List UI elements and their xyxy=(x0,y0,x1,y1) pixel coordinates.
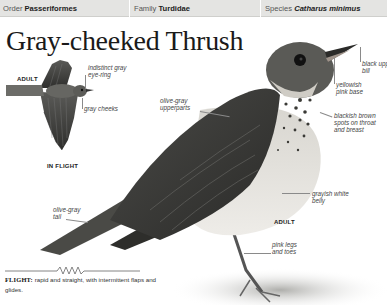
flight-heading: FLIGHT: xyxy=(5,276,33,283)
legs-label: pink legs and toes xyxy=(272,241,297,255)
family-cell: Family Turdidae xyxy=(130,0,261,17)
species-cell: Species Catharus minimus xyxy=(261,0,387,17)
bill-base-leader xyxy=(334,58,335,84)
main-adult-tag: ADULT xyxy=(274,219,295,225)
breast-spots-label: blackish brown spots on throat and breas… xyxy=(334,112,376,134)
flight-pattern-icon xyxy=(5,265,140,275)
family-label: Family xyxy=(134,4,156,13)
belly-leader xyxy=(282,193,310,194)
species-value: Catharus minimus xyxy=(294,4,360,13)
legs-leader xyxy=(244,253,271,254)
order-cell: Order Passeriformes xyxy=(0,0,130,17)
family-value: Turdidae xyxy=(158,4,190,13)
bill-base-label: yellowish pink base xyxy=(336,81,363,95)
taxonomy-bar: Order Passeriformes Family Turdidae Spec… xyxy=(0,0,387,17)
species-label: Species xyxy=(265,4,292,13)
perched-bird-illustration xyxy=(0,30,387,305)
belly-label: grayish white belly xyxy=(312,190,349,204)
order-value: Passeriformes xyxy=(25,4,77,13)
order-label: Order xyxy=(3,4,22,13)
flight-description: FLIGHT: rapid and straight, with intermi… xyxy=(5,275,165,294)
bill-leader xyxy=(360,47,361,62)
bill-label: black upper bill xyxy=(362,60,387,74)
upperparts-label: olive-gray upperparts xyxy=(160,97,190,111)
